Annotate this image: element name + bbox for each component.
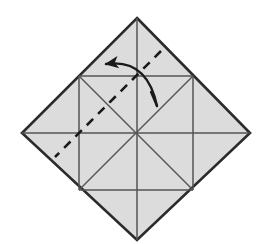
origami-diagram-container: Origami fold step diagram Square sheet s… (0, 0, 261, 244)
paper-square-diamond (22, 18, 250, 240)
origami-fold-diagram: Origami fold step diagram Square sheet s… (0, 0, 261, 244)
paper-layer (22, 18, 250, 240)
